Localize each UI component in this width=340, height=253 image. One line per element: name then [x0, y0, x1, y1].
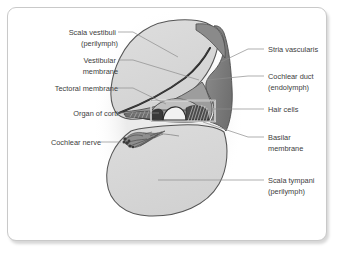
label-cochlear-nerve: Cochlear nerve	[51, 138, 101, 147]
label-scala-tympani: Scala tympani (perilymph)	[268, 176, 316, 196]
label-hair-cells: Hair cells	[268, 105, 299, 114]
label-basilar-membrane: Basilar membrane	[268, 133, 303, 153]
label-organ-of-corti: Organ of corti	[73, 109, 118, 118]
label-stria-vascularis: Stria vascularis	[268, 45, 318, 54]
label-tectoral-membrane: Tectoral membrane	[55, 84, 118, 93]
cochlea-diagram: Scala vestibuli (perilymph) Vestibular m…	[0, 0, 340, 253]
figure-root: Scala vestibuli (perilymph) Vestibular m…	[0, 0, 340, 253]
label-group-right: Stria vascularis Cochlear duct (endolymp…	[268, 45, 318, 196]
label-scala-vestibuli: Scala vestibuli (perilymph)	[69, 28, 118, 48]
label-cochlear-duct: Cochlear duct (endolymph)	[268, 72, 316, 92]
